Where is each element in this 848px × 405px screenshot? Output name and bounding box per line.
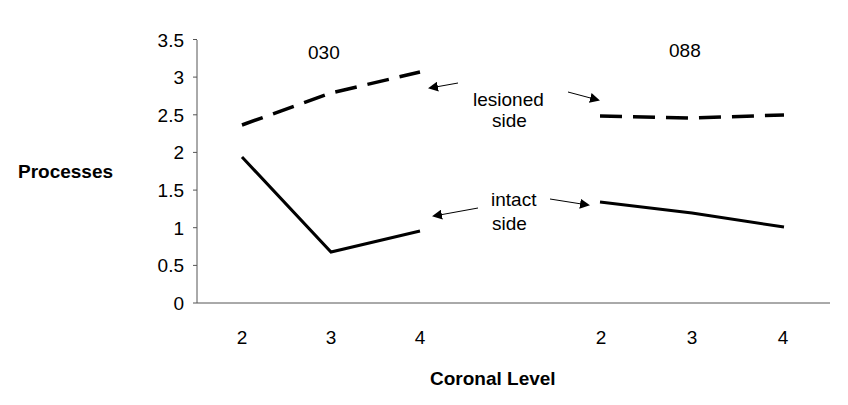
x-tick-label: 2 bbox=[596, 327, 607, 348]
group-label-088: 088 bbox=[669, 40, 701, 61]
y-tick-label: 0.5 bbox=[158, 255, 184, 276]
y-tick-label: 1 bbox=[173, 218, 184, 239]
y-tick-label: 2.5 bbox=[158, 105, 184, 126]
arrow-intact-left bbox=[434, 208, 478, 216]
x-tick-label: 2 bbox=[237, 327, 248, 348]
annotation-intact-line2: side bbox=[492, 213, 527, 234]
y-tick-labels: 0 0.5 1 1.5 2 2.5 3 3.5 bbox=[158, 30, 184, 315]
y-tick-label: 1.5 bbox=[158, 180, 184, 201]
annotation-intact-line1: intact bbox=[491, 189, 537, 210]
y-tick-label: 0 bbox=[173, 293, 184, 314]
group-label-030: 030 bbox=[308, 42, 340, 63]
series-088-intact-side bbox=[600, 202, 784, 227]
annotation-lesioned-line1: lesioned bbox=[473, 89, 544, 110]
arrow-intact-right bbox=[550, 199, 588, 205]
x-tick-label: 3 bbox=[687, 327, 698, 348]
annotation-lesioned-line2: side bbox=[492, 110, 527, 131]
x-tick-label: 4 bbox=[415, 327, 426, 348]
y-axis-title: Processes bbox=[18, 161, 113, 182]
series-088-lesioned-side bbox=[600, 115, 784, 118]
chart: 0 0.5 1 1.5 2 2.5 3 3.5 2 3 4 2 3 4 Proc… bbox=[0, 0, 848, 405]
y-tick-label: 3.5 bbox=[158, 30, 184, 51]
y-tick-label: 3 bbox=[173, 67, 184, 88]
series-030-intact-side bbox=[242, 157, 420, 252]
x-tick-label: 4 bbox=[778, 327, 789, 348]
x-tick-labels: 2 3 4 2 3 4 bbox=[237, 327, 789, 348]
y-ticks bbox=[193, 40, 197, 304]
y-tick-label: 2 bbox=[173, 142, 184, 163]
arrow-lesioned-right bbox=[568, 92, 598, 100]
series-030-lesioned-side bbox=[242, 72, 420, 125]
arrow-lesioned-left bbox=[430, 83, 458, 88]
x-axis-title: Coronal Level bbox=[430, 368, 556, 389]
x-tick-label: 3 bbox=[326, 327, 337, 348]
